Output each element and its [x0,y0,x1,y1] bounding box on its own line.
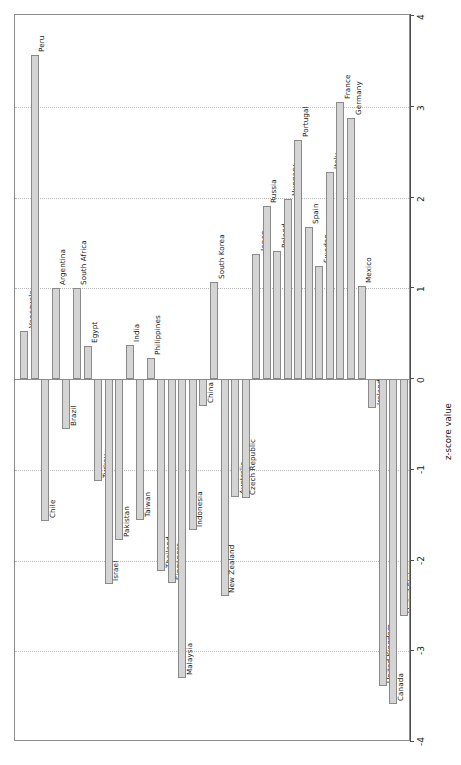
bar-malaysia[interactable] [178,379,186,678]
bar-mexico[interactable] [358,286,366,379]
tick-label-0: 0 [417,377,426,383]
bar-portugal[interactable] [294,140,302,379]
tick--3 [410,650,414,651]
bar-germany[interactable] [347,118,355,379]
bar-label-india: India [133,324,140,342]
tick-2 [410,197,414,198]
bar-label-portugal: Portugal [302,107,309,138]
bar-israel[interactable] [105,379,113,584]
tick-label--2: -2 [417,556,426,565]
tick-label-3: 3 [417,105,426,111]
gridline--1 [15,470,409,471]
bar-label-israel: Israel [112,561,119,581]
gridline-0 [15,379,409,380]
bar-hungary[interactable] [284,199,292,379]
bar-label-new-zealand: New Zealand [228,545,235,593]
value-axis: 43210-1-2-3-4 z-score value [410,14,461,741]
bar-canada[interactable] [389,379,397,704]
tick-label-4: 4 [417,14,426,20]
chart-canvas: VenezuelaPeruChileArgentinaBrazilSouth A… [0,0,461,765]
tick-label-1: 1 [417,287,426,293]
bar-italy[interactable] [326,172,334,379]
bar-label-chile: Chile [49,499,56,518]
bar-south-africa[interactable] [73,288,81,379]
tick-1 [410,287,414,288]
bar-philippines[interactable] [147,358,155,379]
bar-label-indonesia: Indonesia [196,491,203,527]
bar-argentina[interactable] [52,288,60,379]
bar-sweden[interactable] [315,266,323,379]
tick--2 [410,560,414,561]
gridline--2 [15,561,409,562]
tick-4 [410,15,414,16]
bar-label-france: France [344,75,351,100]
bar-label-south-korea: South Korea [218,234,225,279]
tick-label-2: 2 [417,196,426,202]
bar-label-malaysia: Malaysia [186,643,193,675]
bar-venezuela[interactable] [20,331,28,379]
bar-label-peru: Peru [38,36,45,52]
bar-label-egypt: Egypt [91,322,98,343]
bar-label-canada: Canada [397,673,404,701]
tick-label--4: -4 [417,737,426,746]
bar-label-spain: Spain [312,203,319,224]
bar-peru[interactable] [31,55,39,379]
axis-title-label: z-score value [444,403,453,460]
bar-label-germany: Germany [355,81,362,115]
bar-label-mexico: Mexico [365,258,372,284]
bar-japan[interactable] [252,254,260,379]
tick-3 [410,106,414,107]
bar-egypt[interactable] [84,346,92,379]
bar-south-korea[interactable] [210,282,218,379]
bar-poland[interactable] [273,251,281,379]
tick--4 [410,741,414,742]
tick-label--1: -1 [417,465,426,474]
bar-france[interactable] [336,102,344,379]
bar-label-czech-republic: Czech Republic [249,439,256,495]
bar-label-russia: Russia [270,179,277,203]
bar-label-south-africa: South Africa [80,240,87,285]
bar-label-argentina: Argentina [59,249,66,285]
bar-label-taiwan: Taiwan [144,492,151,517]
bar-russia[interactable] [263,206,271,379]
bar-spain[interactable] [305,227,313,379]
gridline-3 [15,107,409,108]
bar-india[interactable] [126,345,134,379]
plot-area: VenezuelaPeruChileArgentinaBrazilSouth A… [14,14,410,741]
bar-label-philippines: Philippines [154,315,161,355]
bar-label-brazil: Brazil [70,405,77,426]
bar-label-pakistan: Pakistan [123,506,130,537]
bar-label-china: China [207,382,214,403]
tick-0 [410,378,414,379]
tick-label--3: -3 [417,646,426,655]
tick--1 [410,469,414,470]
gridline--3 [15,651,409,652]
